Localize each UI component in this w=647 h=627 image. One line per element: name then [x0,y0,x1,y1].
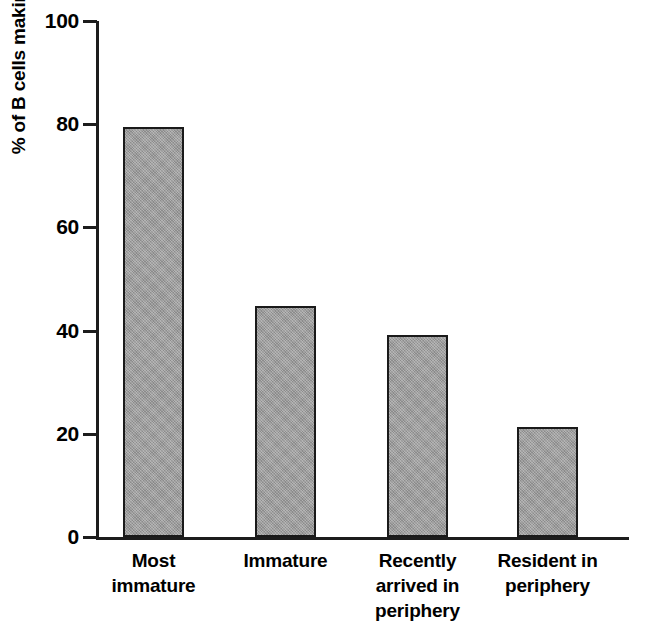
bar[interactable] [517,427,578,537]
y-tick-mark [83,226,97,229]
bar[interactable] [123,127,184,537]
y-tick-label: 20 [23,423,79,444]
bar[interactable] [255,306,316,537]
y-tick-mark [83,123,97,126]
x-axis-label-line: periphery [473,573,623,598]
y-axis-line [96,21,99,538]
x-axis-label-line: immature [79,573,229,598]
x-axis-label-line: periphery [343,598,493,623]
x-axis-label: Immature [211,548,361,573]
y-tick-mark [83,433,97,436]
y-tick-0: 0 [0,536,97,539]
x-axis-label-line: Most [79,548,229,573]
x-axis-label-line: Resident in [473,548,623,573]
y-tick-80: 80 [0,123,97,126]
x-axis-label-line: Recently [343,548,493,573]
y-tick-label: 0 [23,526,79,547]
x-axis-label: Resident inperiphery [473,548,623,598]
bar[interactable] [387,335,448,537]
y-tick-mark [83,536,97,539]
y-tick-20: 20 [0,433,97,436]
x-axis-label: Mostimmature [79,548,229,598]
y-tick-100: 100 [0,20,97,23]
x-axis-label-line: Immature [211,548,361,573]
y-tick-mark [83,20,97,23]
x-axis-label: Recentlyarrived inperiphery [343,548,493,623]
y-tick-label: 80 [23,113,79,134]
y-tick-label: 100 [23,10,79,31]
y-tick-label: 40 [23,320,79,341]
y-tick-60: 60 [0,226,97,229]
y-tick-mark [83,330,97,333]
x-axis-line [96,537,629,540]
y-tick-40: 40 [0,330,97,333]
y-tick-label: 60 [23,216,79,237]
x-axis-label-line: arrived in [343,573,493,598]
bar-chart-figure: % of B cells making autoantibody 0204060… [0,0,647,627]
